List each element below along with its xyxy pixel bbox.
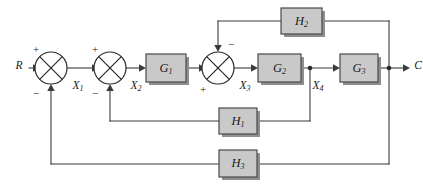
summing-junction-2[interactable] bbox=[94, 52, 126, 84]
summing-junction-1[interactable] bbox=[35, 52, 67, 84]
arrow-h1-into-sum2 bbox=[106, 84, 113, 91]
sign-sum2-plus: + bbox=[92, 43, 98, 55]
arrow-h2-into-sum3 bbox=[214, 45, 221, 52]
label-x1: X1 bbox=[71, 79, 83, 93]
block-h2[interactable]: H2 bbox=[281, 8, 325, 37]
arrow-sum3-to-g2 bbox=[251, 64, 258, 71]
sign-sum1-plus: + bbox=[33, 43, 39, 55]
sign-sum3-minus: − bbox=[228, 38, 234, 50]
sign-sum3-plus: + bbox=[200, 83, 206, 95]
block-g3[interactable]: G3 bbox=[340, 54, 381, 85]
arrow-h3-into-sum1 bbox=[47, 84, 54, 91]
label-x2: X2 bbox=[129, 79, 141, 93]
label-input-r: R bbox=[14, 59, 22, 71]
label-x4: X4 bbox=[311, 79, 323, 93]
arrow-sum2-to-g1 bbox=[139, 64, 146, 71]
label-x3: X3 bbox=[238, 79, 250, 93]
block-diagram-canvas: G1 G2 G3 H1 H2 H3 bbox=[0, 0, 423, 187]
arrow-x4-to-g3 bbox=[333, 64, 340, 71]
summing-junction-3[interactable] bbox=[202, 52, 234, 84]
node-dot-output bbox=[387, 66, 392, 71]
sign-sum1-minus: − bbox=[33, 87, 39, 99]
block-h3[interactable]: H3 bbox=[219, 150, 260, 180]
block-g1[interactable]: G1 bbox=[146, 54, 189, 85]
block-g2[interactable]: G2 bbox=[258, 54, 304, 85]
block-h1[interactable]: H1 bbox=[219, 108, 260, 137]
arrow-output-to-c bbox=[403, 64, 410, 71]
block-diagram-svg: G1 G2 G3 H1 H2 H3 bbox=[0, 0, 423, 187]
node-dot-x4 bbox=[308, 66, 313, 71]
label-output-c: C bbox=[414, 59, 422, 71]
sign-sum2-minus: − bbox=[92, 87, 98, 99]
